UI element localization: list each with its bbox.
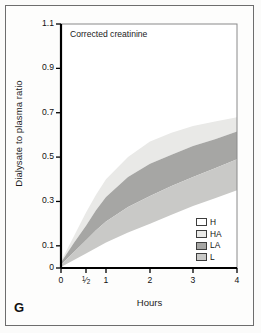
- legend-label: H: [210, 218, 216, 226]
- x-tick-label: 2: [140, 275, 160, 285]
- x-tick-label: 1⁄2: [76, 275, 96, 285]
- legend-swatch-l: [196, 253, 207, 261]
- x-tick-label: 3: [183, 275, 203, 285]
- y-tick-label: 0.1: [28, 240, 54, 250]
- y-tick-label: 0.9: [28, 62, 54, 72]
- y-tick-label: 1.1: [28, 18, 54, 28]
- legend-label: LA: [210, 241, 220, 249]
- y-axis-label: Dialysate to plasma ratio: [13, 54, 24, 214]
- x-axis-label: Hours: [61, 297, 238, 308]
- legend-swatch-la: [196, 242, 207, 250]
- legend-item-la: LA: [196, 240, 222, 251]
- chart-legend: HHALAL: [196, 217, 222, 264]
- x-tick-label: 1: [96, 275, 116, 285]
- legend-label: HA: [210, 230, 222, 238]
- legend-item-l: L: [196, 252, 222, 263]
- legend-label: L: [210, 253, 215, 261]
- y-tick-label: 0.3: [28, 195, 54, 205]
- legend-swatch-h: [196, 218, 207, 226]
- panel-letter: G: [14, 300, 24, 315]
- figure-panel: Corrected creatinine Dialysate to plasma…: [0, 0, 261, 333]
- legend-item-h: H: [196, 217, 222, 228]
- legend-item-ha: HA: [196, 229, 222, 240]
- chart-title: Corrected creatinine: [70, 29, 147, 39]
- x-tick-label: 4: [227, 275, 247, 285]
- legend-swatch-ha: [196, 230, 207, 238]
- x-tick-label: 0: [51, 275, 71, 285]
- y-tick-label: 0: [28, 262, 54, 272]
- chart-plot-area: [0, 0, 261, 333]
- y-tick-label: 0.5: [28, 151, 54, 161]
- y-tick-label: 0.7: [28, 107, 54, 117]
